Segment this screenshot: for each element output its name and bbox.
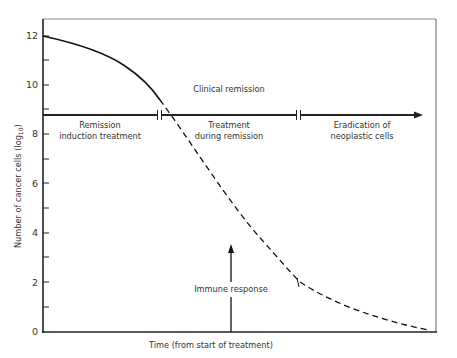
y-tick-6: 6 bbox=[32, 178, 38, 189]
phase-1-label-line-1: Remission bbox=[79, 120, 121, 130]
clinical-remission-line bbox=[43, 110, 423, 120]
cell-count-curve-solid bbox=[43, 36, 160, 100]
y-axis-label: Number of cancer cells (log10) bbox=[13, 124, 24, 248]
immune-response-label: Immune response bbox=[194, 284, 268, 294]
y-tick-labels: 0 2 4 6 8 10 12 bbox=[26, 30, 38, 337]
x-axis-label: Time (from start of treatment) bbox=[148, 340, 273, 350]
clinical-remission-label: Clinical remission bbox=[193, 84, 265, 94]
y-tick-12: 12 bbox=[26, 30, 38, 41]
curve-tick-mark bbox=[297, 278, 299, 287]
phase-break-1 bbox=[157, 110, 162, 120]
phase-break-2 bbox=[296, 110, 301, 120]
y-tick-4: 4 bbox=[32, 227, 38, 238]
arrowhead-right-icon bbox=[414, 112, 423, 119]
y-tick-10: 10 bbox=[26, 79, 38, 90]
phase-3-label-line-1: Eradication of bbox=[334, 120, 392, 130]
y-tick-8: 8 bbox=[32, 128, 38, 139]
phase-2-label-line-1: Treatment bbox=[207, 120, 250, 130]
phase-2-label-line-2: during remission bbox=[195, 131, 264, 141]
phase-3-label-line-2: neoplastic cells bbox=[331, 131, 394, 141]
arrowhead-up-icon bbox=[228, 244, 234, 253]
phase-1-label-line-2: induction treatment bbox=[59, 131, 142, 141]
cancer-cell-chart: 0 2 4 6 8 10 12 Number of cancer cells (… bbox=[0, 0, 457, 358]
y-tick-2: 2 bbox=[32, 277, 38, 288]
y-ticks bbox=[43, 36, 49, 307]
y-tick-0: 0 bbox=[32, 326, 38, 337]
